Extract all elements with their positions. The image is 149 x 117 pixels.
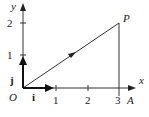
x-axis-label: x xyxy=(138,74,144,86)
unit-j-label: j xyxy=(9,74,14,86)
vector-diagram: y x O 1 2 3 1 2 P A i j xyxy=(0,0,149,117)
x-tick-label-3: 3 xyxy=(115,94,121,106)
origin-label: O xyxy=(9,91,17,103)
i-arrow-icon xyxy=(45,84,54,92)
point-A-label: A xyxy=(126,94,134,106)
point-P-label: P xyxy=(122,12,130,24)
j-arrow-icon xyxy=(19,56,27,65)
y-tick-label-1: 1 xyxy=(7,49,13,61)
y-axis-label: y xyxy=(10,0,16,12)
y-tick-label-2: 2 xyxy=(7,17,13,29)
x-tick-label-2: 2 xyxy=(85,94,91,106)
x-axis-arrow-icon xyxy=(128,85,136,91)
y-axis-arrow-icon xyxy=(20,3,26,11)
unit-i-label: i xyxy=(32,91,35,103)
x-tick-label-1: 1 xyxy=(53,94,59,106)
